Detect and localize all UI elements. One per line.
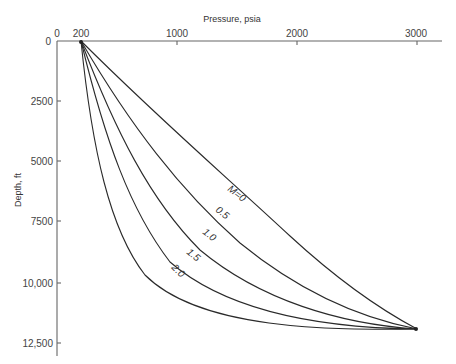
- x-tick-labels: 0 200 1000 2000 3000: [54, 28, 427, 39]
- end-point-marker: [414, 327, 418, 331]
- label-m10: 1.0: [201, 226, 219, 243]
- x-axis-title: Pressure, psia: [203, 14, 261, 24]
- curve-m10: [81, 41, 417, 329]
- label-m15: 1.5: [185, 246, 203, 264]
- x-ticks: [177, 41, 417, 45]
- svg-text:3000: 3000: [405, 28, 428, 39]
- curves: [81, 41, 417, 329]
- label-m05: 0.5: [214, 204, 232, 221]
- curve-m05: [81, 41, 417, 329]
- svg-text:7500: 7500: [31, 216, 54, 227]
- curve-m0: [81, 41, 417, 329]
- y-ticks: [57, 101, 61, 343]
- svg-text:10,000: 10,000: [22, 278, 53, 289]
- svg-text:2500: 2500: [31, 96, 54, 107]
- curve-labels: M=0 0.5 1.0 1.5 2.0: [169, 183, 249, 280]
- y-tick-labels: 0 2500 5000 7500 10,000 12,500: [22, 36, 53, 349]
- svg-text:2000: 2000: [286, 28, 309, 39]
- svg-text:0: 0: [45, 36, 51, 47]
- curve-m15: [81, 41, 417, 329]
- svg-text:200: 200: [73, 28, 90, 39]
- start-point-marker: [79, 40, 83, 44]
- curve-m20: [81, 41, 417, 329]
- svg-text:1000: 1000: [166, 28, 189, 39]
- y-axis-title: Depth, ft: [13, 172, 23, 207]
- svg-text:5000: 5000: [31, 156, 54, 167]
- svg-text:12,500: 12,500: [22, 338, 53, 349]
- label-m0: M=0: [226, 183, 249, 204]
- svg-text:0: 0: [54, 28, 60, 39]
- pressure-depth-chart: Pressure, psia 0 200 1000 2000 3000 0 25…: [0, 0, 456, 364]
